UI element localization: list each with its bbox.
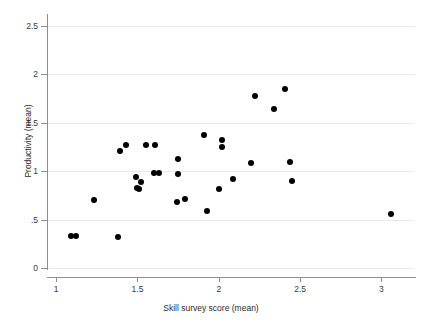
x-tick-label: 3: [379, 285, 384, 294]
y-tick-mark: [41, 171, 47, 172]
gridline-y: [48, 26, 414, 27]
y-axis-line: [47, 14, 48, 270]
data-point: [117, 148, 123, 154]
x-tick-mark: [381, 277, 382, 282]
x-tick-mark: [300, 277, 301, 282]
data-point: [201, 132, 207, 138]
plot-area: [48, 16, 414, 268]
x-tick-label: 2.5: [294, 285, 306, 294]
plot-background: [48, 16, 414, 268]
y-tick-mark: [41, 268, 47, 269]
y-axis-title: Productivity (mean): [23, 61, 33, 221]
x-axis-title: Skill survey score (mean): [0, 303, 422, 313]
gridline-y: [48, 268, 414, 269]
scatter-plot-figure: 0.511.522.5 11.522.53 Skill survey score…: [0, 0, 422, 325]
data-point: [138, 179, 144, 185]
x-axis-line: [47, 277, 416, 278]
y-tick-mark: [41, 123, 47, 124]
data-point: [91, 197, 97, 203]
x-tick-mark: [56, 277, 57, 282]
data-point: [73, 233, 79, 239]
gridline-y: [48, 74, 414, 75]
x-tick-label: 1.5: [132, 285, 144, 294]
y-tick-mark: [41, 26, 47, 27]
x-tick-label: 1: [54, 285, 59, 294]
data-point: [123, 142, 129, 148]
data-point: [156, 170, 162, 176]
data-point: [143, 142, 149, 148]
x-tick-mark: [219, 277, 220, 282]
y-tick-mark: [41, 74, 47, 75]
y-tick-label: 2.5: [14, 22, 38, 31]
x-tick-mark: [137, 277, 138, 282]
data-point: [136, 186, 142, 192]
data-point: [174, 199, 180, 205]
gridline-y: [48, 220, 414, 221]
y-tick-mark: [41, 220, 47, 221]
x-tick-label: 2: [216, 285, 221, 294]
data-point: [182, 196, 188, 202]
y-tick-label: 0: [14, 264, 38, 273]
gridline-y: [48, 171, 414, 172]
gridline-y: [48, 123, 414, 124]
